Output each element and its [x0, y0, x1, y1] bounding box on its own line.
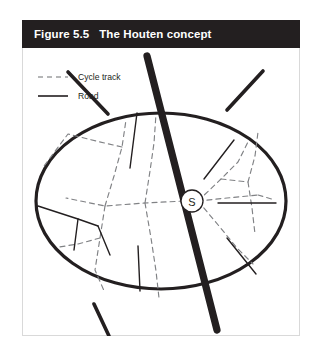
- legend-label-cycle-track: Cycle track: [78, 72, 121, 82]
- external-road-stub-northeast: [227, 71, 263, 110]
- figure-caption-bar: Figure 5.5 The Houten concept: [22, 20, 300, 48]
- houten-concept-diagram: Cycle track Road: [22, 48, 300, 336]
- legend-item-cycle-track: Cycle track: [38, 72, 121, 82]
- diagram-area: Cycle track Road: [22, 48, 300, 336]
- station-marker-label: S: [188, 196, 195, 208]
- figure-root: Figure 5.5 The Houten concept Cycle trac…: [0, 0, 315, 358]
- town-boundary-ellipse: [36, 113, 286, 289]
- figure-caption-text: Figure 5.5 The Houten concept: [34, 28, 212, 40]
- station-marker: S: [181, 190, 203, 212]
- external-road-stub-southwest: [94, 304, 109, 336]
